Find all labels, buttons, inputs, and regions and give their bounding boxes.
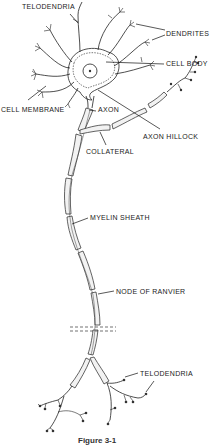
label-myelin-sheath: MYELIN SHEATH: [90, 214, 150, 222]
label-collateral: COLLATERAL: [86, 148, 134, 156]
label-cell-membrane: CELL MEMBRANE: [1, 106, 65, 114]
label-axon: AXON: [98, 106, 119, 114]
label-dendrites: DENDRITES: [166, 30, 209, 38]
dendrites-shape: [31, 2, 155, 108]
axon-shape: [65, 96, 101, 355]
label-node-of-ranvier: NODE OF RANVIER: [116, 288, 185, 296]
label-telodendria-top: TELODENDRIA: [22, 3, 75, 11]
figure-caption: Figure 3-1: [78, 436, 116, 445]
label-telodendria-bottom: TELODENDRIA: [140, 370, 193, 378]
terminal-branches: [38, 357, 147, 432]
label-axon-hillock: AXON HILLOCK: [143, 133, 198, 141]
label-cell-body: CELL BODY: [166, 60, 208, 68]
